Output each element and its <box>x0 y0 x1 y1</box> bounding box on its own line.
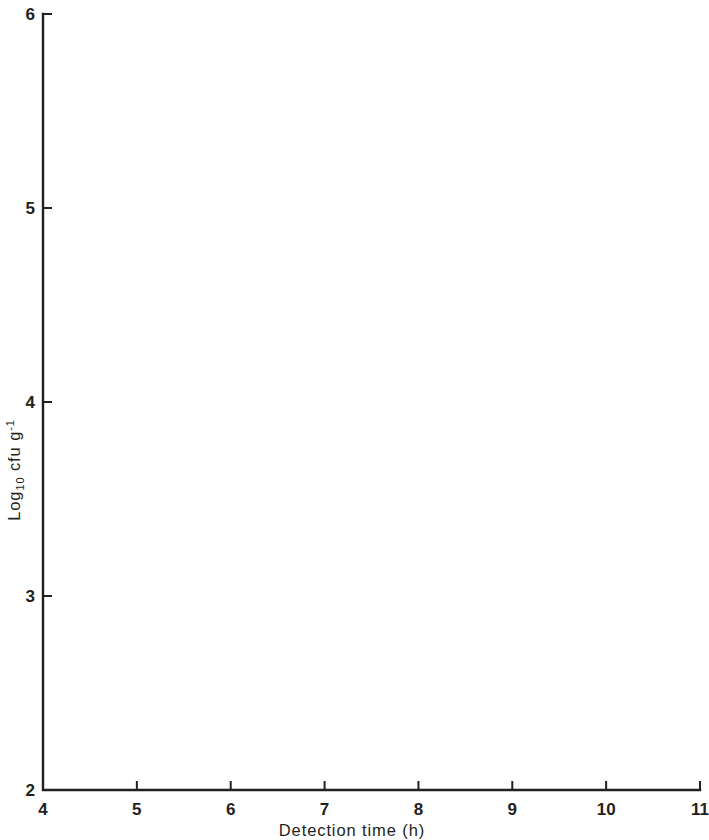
x-axis-tick-label: 11 <box>691 800 709 819</box>
y-axis-tick-label: 6 <box>26 5 35 24</box>
y-axis-tick-label: 5 <box>26 199 35 218</box>
y-axis-title: Log10 cfu g-1 <box>4 419 26 521</box>
x-axis-tick-label: 7 <box>320 800 329 819</box>
x-axis-tick-label: 5 <box>132 800 141 819</box>
y-axis-tick-label: 4 <box>26 393 36 412</box>
scatter-plot-figure: 456789101123456 Detection time (h) Log10… <box>0 0 709 840</box>
y-axis-tick-label: 2 <box>26 781 35 800</box>
axis-frame <box>43 14 700 790</box>
y-axis-tick-label: 3 <box>26 587 35 606</box>
x-axis-tick-label: 6 <box>226 800 235 819</box>
y-axis-title-superscript: -1 <box>4 419 16 431</box>
plot-canvas: 456789101123456 Detection time (h) Log10… <box>0 0 709 840</box>
y-axis-title-base: Log <box>5 491 23 521</box>
x-axis-title: Detection time (h) <box>279 821 425 839</box>
axes: 456789101123456 <box>26 5 709 819</box>
x-axis-tick-label: 9 <box>508 800 517 819</box>
y-axis-title-subscript: 10 <box>14 477 26 491</box>
x-axis-tick-label: 4 <box>38 800 48 819</box>
x-axis-tick-label: 10 <box>597 800 616 819</box>
x-axis-tick-label: 8 <box>414 800 423 819</box>
y-axis-title-mid: cfu g <box>5 431 23 477</box>
